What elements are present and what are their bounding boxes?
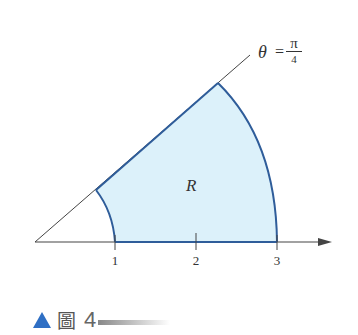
tick-label-1: 1 <box>112 253 119 269</box>
region-r-fill <box>96 83 277 242</box>
caption-underline-bar <box>98 320 170 325</box>
region-label: R <box>186 176 196 196</box>
fraction-pi-over-4: π 4 <box>286 36 302 65</box>
fraction-numerator: π <box>286 36 302 50</box>
polar-region-diagram <box>0 0 358 335</box>
theta-symbol: θ <box>258 42 267 63</box>
tick-label-2: 2 <box>193 253 200 269</box>
figure-number: 4 <box>84 307 96 333</box>
figure-caption: 圖 4 <box>33 306 170 333</box>
triangle-marker-icon <box>33 312 51 328</box>
figure-glyph: 圖 <box>57 306 76 333</box>
tick-label-3: 3 <box>274 253 281 269</box>
equals-sign: = <box>275 43 284 61</box>
fraction-denominator: 4 <box>286 53 302 65</box>
axis-arrow-icon <box>318 238 332 246</box>
fraction-bar <box>286 51 302 52</box>
